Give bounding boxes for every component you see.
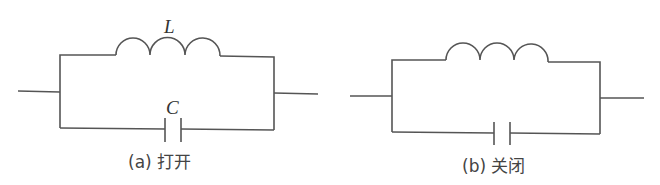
panel-b-caption: (b) 关闭 [462,156,525,176]
bottom-right-wire [510,133,600,134]
left-terminal-wire [18,91,60,92]
inductor-coil [446,43,548,62]
panel-a-circuit: L C (a) 打开 [18,16,318,172]
bottom-right-wire [181,129,274,130]
panel-b-circuit: (b) 关闭 [350,43,644,176]
circuit-figure: L C (a) 打开 (b) 关闭 [0,0,660,185]
capacitor-label: C [166,97,179,118]
right-branch-wire [220,56,274,130]
left-branch-wire [392,60,446,132]
right-terminal-wire [274,93,318,94]
right-branch-wire [548,62,600,134]
bottom-left-wire [392,132,494,133]
bottom-left-wire [60,128,165,129]
panel-a-caption: (a) 打开 [128,152,191,172]
left-branch-wire [60,55,116,128]
inductor-coil [116,38,220,57]
inductor-label: L [163,16,175,37]
